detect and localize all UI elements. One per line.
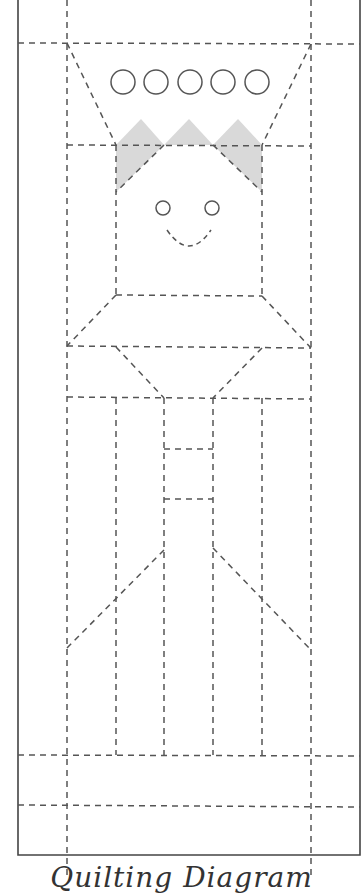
smile-icon — [167, 230, 211, 246]
seam-bottom-horizontal-1 — [18, 755, 360, 756]
hat-circle-2 — [144, 70, 168, 94]
collar-seam — [67, 346, 311, 348]
collar-right-edge — [262, 296, 311, 348]
hat-circle-4 — [211, 70, 235, 94]
hat-right-edge — [262, 44, 311, 145]
seam-top-horizontal — [18, 43, 360, 44]
collar-left-edge — [67, 295, 116, 346]
right-eye-icon — [205, 201, 219, 215]
shirt-v-left — [116, 347, 164, 398]
hat-circle-3 — [178, 70, 202, 94]
left-eye-icon — [156, 201, 170, 215]
shirt-v-right — [213, 348, 262, 398]
hat-circle-1 — [111, 70, 135, 94]
shirt-top-seam — [67, 397, 311, 399]
hat-left-edge — [67, 43, 116, 145]
seam-bottom-horizontal-2 — [18, 805, 360, 807]
crown-shading — [116, 119, 262, 192]
hat-circles — [111, 70, 269, 94]
diagram-caption: Quilting Diagram — [0, 864, 363, 892]
face-bottom-edge — [116, 295, 262, 296]
hat-circle-5 — [245, 70, 269, 94]
hat-brim-seam — [67, 145, 311, 146]
